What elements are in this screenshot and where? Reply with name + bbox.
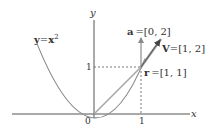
vector-v-label: V=[1, 2] <box>161 43 205 54</box>
vector-v-arrow-core <box>141 40 160 67</box>
x-tick-label: 1 <box>139 116 145 126</box>
y-tick-label: 1 <box>86 62 92 72</box>
parabola-curve <box>37 44 145 118</box>
x-axis-label: x <box>191 108 197 119</box>
point-r-value: =[1, 1] <box>151 67 186 78</box>
vector-a-label: a=[0, 2] <box>127 26 171 37</box>
origin-label: 0 <box>85 116 91 126</box>
parabola-vector-diagram: y x 0 1 1 y=x2 a=[0, 2] V=[1, 2] r=[1, 1… <box>0 0 214 134</box>
point-r-label: r=[1, 1] <box>144 67 187 78</box>
equation-exponent: 2 <box>54 33 58 41</box>
curve-equation-label: y=x2 <box>33 33 59 45</box>
vector-v-value: =[1, 2] <box>170 43 205 54</box>
y-axis-label: y <box>89 7 96 18</box>
vector-a-value: =[0, 2] <box>135 26 170 37</box>
equation-equals: = <box>40 34 48 45</box>
point-r-name: r <box>144 67 150 78</box>
vector-a-name: a <box>127 26 134 37</box>
vector-v-name: V <box>161 43 170 54</box>
